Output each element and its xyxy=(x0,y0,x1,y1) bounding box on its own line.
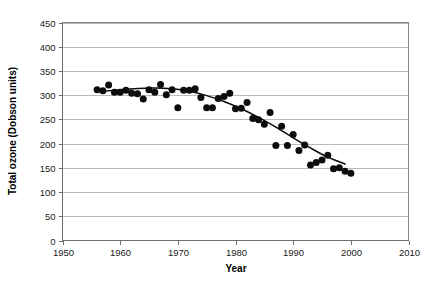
y-tick-label-350: 350 xyxy=(40,66,56,77)
y-tick-label-150: 150 xyxy=(40,163,56,174)
data-point xyxy=(238,105,245,112)
data-point xyxy=(134,90,141,97)
data-point xyxy=(284,142,291,149)
data-point xyxy=(244,99,251,106)
x-tick-label-2010: 2010 xyxy=(399,247,420,258)
y-tick-label-450: 450 xyxy=(40,18,56,29)
data-point xyxy=(99,87,106,94)
data-point xyxy=(347,170,354,177)
data-point xyxy=(295,147,302,154)
data-point xyxy=(272,142,279,149)
data-point xyxy=(105,81,112,88)
ozone-trend-chart: 050100150200250300350400450 195019601970… xyxy=(0,0,436,295)
y-tick-label-50: 50 xyxy=(45,211,56,222)
data-point xyxy=(174,104,181,111)
data-point xyxy=(278,123,285,130)
x-tick-label-1980: 1980 xyxy=(226,247,247,258)
data-point xyxy=(301,142,308,149)
data-point xyxy=(197,94,204,101)
data-point xyxy=(267,109,274,116)
x-axis-title: Year xyxy=(225,263,246,274)
x-tick-label-1970: 1970 xyxy=(168,247,189,258)
y-tick-label-250: 250 xyxy=(40,114,56,125)
data-point xyxy=(319,157,326,164)
data-point xyxy=(169,86,176,93)
x-tick-label-2000: 2000 xyxy=(341,247,362,258)
data-point xyxy=(209,104,216,111)
data-point xyxy=(226,90,233,97)
data-point xyxy=(151,89,158,96)
data-point xyxy=(163,91,170,98)
y-tick-label-300: 300 xyxy=(40,90,56,101)
data-point xyxy=(261,121,268,128)
x-tick-label-1960: 1960 xyxy=(110,247,131,258)
x-tick-label-1950: 1950 xyxy=(53,247,74,258)
data-point xyxy=(290,131,297,138)
y-axis-title: Total ozone (Dobson units) xyxy=(7,67,18,195)
y-tick-label-200: 200 xyxy=(40,139,56,150)
data-point xyxy=(140,96,147,103)
y-tick-label-400: 400 xyxy=(40,42,56,53)
data-point xyxy=(324,152,331,159)
x-tick-label-1990: 1990 xyxy=(283,247,304,258)
chart-svg: 050100150200250300350400450 195019601970… xyxy=(0,0,436,295)
data-point xyxy=(255,116,262,123)
y-tick-label-0: 0 xyxy=(50,236,55,247)
data-point xyxy=(192,85,199,92)
y-tick-label-100: 100 xyxy=(40,187,56,198)
data-point xyxy=(157,81,164,88)
